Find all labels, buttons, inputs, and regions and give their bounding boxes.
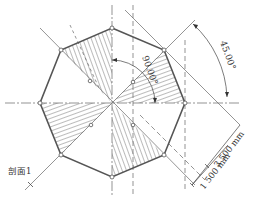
vertex-bottom-left — [59, 153, 63, 157]
vertex-top — [110, 26, 114, 30]
vertex-bottom — [110, 175, 114, 179]
octagon-section-diagram: 90.00° 45.00° 3 500 mm 1 500 mm 剖面1 — [0, 0, 271, 211]
section-label: 剖面1 — [8, 166, 31, 176]
vertex-bottom-right — [162, 153, 166, 157]
midpoint-nw — [88, 79, 92, 83]
vertex-top-left — [59, 48, 63, 52]
midpoint-se — [131, 123, 135, 127]
midpoint-sw — [89, 123, 93, 127]
arrow-90-start — [112, 58, 117, 62]
midpoint-ne — [131, 80, 135, 84]
arc-45 — [193, 24, 227, 97]
vertex-right — [183, 101, 187, 105]
vertex-top-right — [162, 48, 166, 52]
vertex-left — [38, 101, 42, 105]
arrow-45-end — [225, 92, 229, 97]
